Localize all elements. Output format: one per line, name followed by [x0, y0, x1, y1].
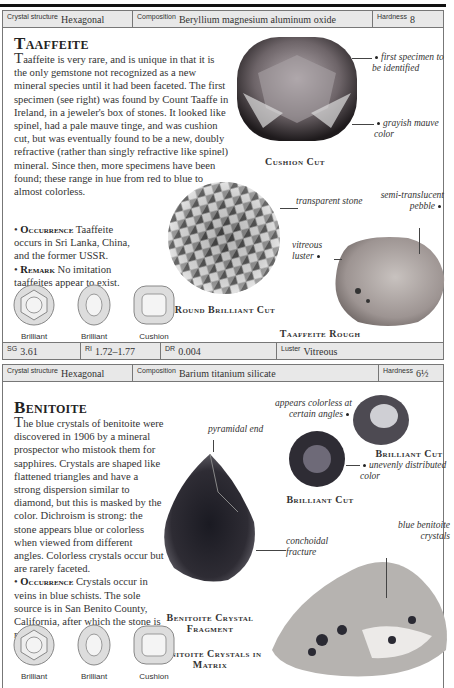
colorless-angles-note: appears colorless at certain angles [272, 398, 352, 420]
leader-line [346, 465, 360, 466]
leader-line [280, 208, 298, 209]
ri-cell: RI1.72–1.77 [81, 343, 161, 359]
cushion-cut-caption: Cushion Cut [240, 156, 350, 167]
crystal-structure-value: Hexagonal [61, 14, 104, 25]
benitoite-fragment-image [158, 452, 262, 584]
brilliant-cut-caption-1: Brilliant Cut [364, 448, 454, 459]
grayish-mauve-note: grayish mauve color [374, 118, 446, 140]
benitoite-cut-diagrams: Brilliant Brilliant Cushion [10, 624, 178, 681]
hardness-cell: Hardness6½ [379, 365, 443, 381]
first-specimen-note: first specimen to be identified [372, 52, 447, 74]
benitoite-title: Benitoite [14, 398, 87, 418]
cut-diagram-brilliant-oval: Brilliant [70, 624, 118, 681]
sg-cell: SG3.61 [3, 343, 81, 359]
leader-line [213, 440, 214, 452]
taaffeite-cut-diagrams: Brilliant Brilliant Cushion [10, 284, 178, 341]
benitoite-property-bar: Crystal structureHexagonal CompositionBa… [2, 364, 444, 382]
benitoite-brilliant-1-image [352, 394, 410, 446]
cut-diagram-brilliant: Brilliant [10, 624, 58, 681]
hardness-value: 8 [410, 14, 415, 25]
leader-line [419, 228, 420, 254]
cut-diagram-cushion: Cushion [130, 624, 178, 681]
brilliant-cut-caption-2: Brilliant Cut [270, 494, 370, 505]
dropcap: T [14, 50, 23, 66]
occurrence-label: Occurrence [20, 224, 73, 235]
composition-cell: Composition Beryllium magnesium aluminum… [133, 11, 373, 27]
transparent-stone-note: transparent stone [296, 196, 366, 207]
composition-label: Composition [137, 11, 176, 20]
taaffeite-title: Taaffeite [14, 34, 89, 54]
benitoite-brilliant-2-image [288, 430, 346, 488]
intro-text: aaffeite is very rare, and is unique in … [14, 54, 228, 197]
leader-line [352, 58, 372, 59]
crystal-structure-label: Crystal structure [7, 11, 58, 20]
taaffeite-rough-caption: Taaffeite Rough [250, 328, 390, 339]
hardness-cell: Hardness 8 [373, 11, 443, 27]
hardness-label: Hardness [377, 11, 407, 20]
cut-diagram-brilliant: Brilliant [10, 284, 58, 341]
taaffeite-occurrence: • Occurrence Taaffeite occurs in Sri Lan… [14, 223, 134, 289]
benitoite-description: The blue crystals of benitoite were disc… [14, 416, 164, 641]
cut-diagram-cushion: Cushion [130, 284, 178, 341]
cushion-cut-gem-image [233, 33, 361, 145]
luster-cell: LusterVitreous [277, 343, 443, 359]
taaffeite-rough-image [328, 226, 448, 330]
crystal-structure-cell: Crystal structureHexagonal [3, 365, 133, 381]
taaffeite-footer-bar: SG3.61 RI1.72–1.77 DR0.004 LusterVitreou… [2, 342, 444, 360]
composition-cell: CompositionBarium titanium silicate [133, 365, 379, 381]
vitreous-luster-note: vitreous luster [292, 240, 340, 262]
benitoite-matrix-image [262, 540, 454, 684]
crystal-structure-cell: Crystal structure Hexagonal [3, 11, 133, 27]
dr-cell: DR0.004 [161, 343, 277, 359]
semi-translucent-note: semi-translucent pebble [372, 190, 444, 212]
taaffeite-description: Taaffeite is very rare, and is unique in… [14, 52, 229, 198]
composition-value: Beryllium magnesium aluminum oxide [179, 14, 336, 25]
pyramidal-end-note: pyramidal end [208, 424, 268, 435]
cut-diagram-brilliant-oval: Brilliant [70, 284, 118, 341]
leader-line [352, 124, 374, 125]
round-brilliant-gem-image [166, 180, 282, 296]
blue-benitoite-note: blue benitoite crystals [370, 520, 450, 542]
leader-line [386, 558, 387, 598]
taaffeite-property-bar: Crystal structure Hexagonal Composition … [2, 10, 444, 28]
top-rule [0, 4, 446, 7]
uneven-color-note: unevenly distributed color [360, 460, 450, 482]
remark-label: Remark [20, 264, 54, 275]
round-brilliant-caption: Round Brilliant Cut [160, 304, 290, 315]
